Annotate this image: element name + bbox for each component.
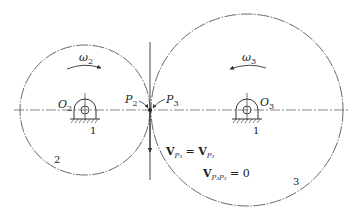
- ground-link-number-right: 1: [253, 125, 259, 136]
- ground-link-number-left: 1: [90, 125, 96, 136]
- p2-label: P2: [124, 93, 138, 108]
- bearing-o2-icon: [70, 93, 100, 123]
- omega2-label: ω2: [79, 51, 93, 66]
- o3-label: O3: [260, 96, 274, 111]
- contact-point: [148, 108, 152, 112]
- equation-velocity-equal: VP₃ = VP₂: [165, 145, 215, 160]
- equation-relative-velocity-zero: VP₃P₂ = 0: [202, 167, 250, 182]
- omega2-arrow-icon: [67, 65, 101, 69]
- o2-label: O2: [58, 98, 72, 113]
- p3-label: P3: [165, 93, 179, 108]
- p2-pointer-arrow: [139, 101, 148, 108]
- gear3-number: 3: [293, 176, 299, 187]
- omega3-label: ω3: [242, 51, 256, 66]
- gear2-number: 2: [54, 154, 60, 165]
- omega3-arrow-icon: [230, 65, 266, 69]
- bearing-o3-icon: [232, 93, 262, 123]
- p3-pointer-arrow: [153, 99, 165, 108]
- rolling-contact-diagram: ω2 ω3 O2 1 2 O3 1 3 P2 P3 VP₃ = VP₂ VP₃P…: [0, 0, 356, 217]
